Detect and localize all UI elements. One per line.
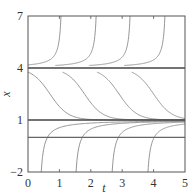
rising-solution-curve <box>76 121 185 172</box>
solution-curves-chart: 012345 −2147 t x <box>0 0 191 194</box>
y-tick-label: 4 <box>17 61 23 75</box>
x-tick-label: 3 <box>119 176 125 190</box>
x-tick-label: 2 <box>88 176 94 190</box>
blowup-solution-curve <box>28 16 61 65</box>
solution-curves <box>28 16 185 172</box>
decreasing-solution-curve <box>63 72 185 120</box>
plot-frame <box>28 16 185 172</box>
blowup-solution-curve <box>124 16 165 65</box>
axis-ticks <box>59 16 153 172</box>
decreasing-solution-curve <box>132 72 185 118</box>
y-tick-label: 7 <box>17 9 23 23</box>
rising-solution-curve <box>148 124 185 172</box>
x-tick-label: 5 <box>182 176 188 190</box>
decreasing-solution-curve <box>28 72 185 120</box>
y-axis-label: x <box>0 91 13 98</box>
x-tick-labels: 012345 <box>25 176 188 190</box>
blowup-solution-curve <box>55 16 96 65</box>
y-tick-label: −2 <box>10 165 23 179</box>
x-tick-label: 0 <box>25 176 31 190</box>
decreasing-solution-curve <box>97 72 185 120</box>
x-tick-label: 4 <box>151 176 157 190</box>
x-axis-label: t <box>102 181 106 194</box>
y-tick-label: 1 <box>17 113 23 127</box>
x-tick-label: 1 <box>56 176 62 190</box>
